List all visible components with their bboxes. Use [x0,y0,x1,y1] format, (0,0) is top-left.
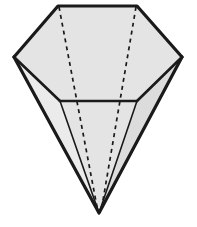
hexagonal-pyramid-figure [0,0,197,227]
